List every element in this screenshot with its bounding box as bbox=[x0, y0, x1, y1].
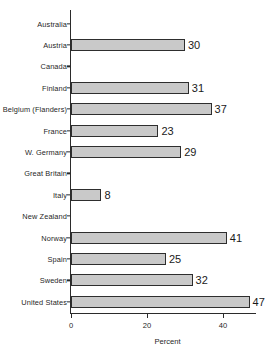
category-tick-mark bbox=[67, 66, 72, 67]
category-label: France bbox=[43, 126, 67, 135]
bar-row: Sweden32 bbox=[0, 270, 277, 291]
bar-row: Spain25 bbox=[0, 248, 277, 269]
bar-row: United States47 bbox=[0, 291, 277, 312]
category-label: Finland bbox=[42, 83, 67, 92]
bar bbox=[71, 189, 101, 201]
bar-value-label: 31 bbox=[192, 82, 204, 94]
category-label: New Zealand bbox=[22, 212, 67, 221]
bar-row: Belgium (Flanders)37 bbox=[0, 99, 277, 120]
bar-chart-figure: AustraliaAustria30CanadaFinland31Belgium… bbox=[0, 0, 277, 352]
bar bbox=[71, 232, 227, 244]
category-label: Australia bbox=[37, 19, 67, 28]
category-label: Belgium (Flanders) bbox=[3, 105, 67, 114]
value-tick-mark bbox=[71, 313, 72, 318]
bar-value-label: 30 bbox=[188, 39, 200, 51]
bar bbox=[71, 146, 181, 158]
category-label: Norway bbox=[41, 233, 67, 242]
value-tick-label: 0 bbox=[69, 321, 73, 330]
bar bbox=[71, 274, 193, 286]
category-label: United States bbox=[21, 297, 67, 306]
bar-value-label: 29 bbox=[184, 146, 196, 158]
bar-row: Finland31 bbox=[0, 77, 277, 98]
bar bbox=[71, 296, 250, 308]
category-tick-mark bbox=[67, 23, 72, 24]
category-label: Spain bbox=[48, 254, 67, 263]
bar bbox=[71, 253, 166, 265]
value-tick-mark bbox=[223, 313, 224, 318]
bar bbox=[71, 125, 158, 137]
bar-value-label: 25 bbox=[169, 253, 181, 265]
bar-value-label: 8 bbox=[104, 189, 110, 201]
category-label: W. Germany bbox=[25, 147, 67, 156]
bar-row: W. Germany29 bbox=[0, 141, 277, 162]
category-label: Italy bbox=[53, 190, 67, 199]
value-tick-label: 20 bbox=[143, 321, 151, 330]
value-axis-title: Percent bbox=[0, 337, 277, 346]
category-tick-mark bbox=[67, 173, 72, 174]
plot-area: AustraliaAustria30CanadaFinland31Belgium… bbox=[0, 0, 277, 352]
value-axis-title-text: Percent bbox=[154, 337, 180, 346]
bar-value-label: 47 bbox=[253, 296, 265, 308]
value-axis-line bbox=[70, 313, 256, 314]
bar-row: Italy8 bbox=[0, 184, 277, 205]
bar-row: New Zealand bbox=[0, 206, 277, 227]
category-tick-mark bbox=[67, 215, 72, 216]
bar-row: Great Britain bbox=[0, 163, 277, 184]
value-tick-label: 40 bbox=[219, 321, 227, 330]
bar-row: Australia bbox=[0, 13, 277, 34]
bar bbox=[71, 39, 185, 51]
bar-value-label: 23 bbox=[161, 125, 173, 137]
bar-row: Austria30 bbox=[0, 34, 277, 55]
category-label: Great Britain bbox=[24, 169, 67, 178]
category-label: Canada bbox=[41, 62, 68, 71]
category-label: Sweden bbox=[40, 276, 67, 285]
bar-value-label: 41 bbox=[230, 232, 242, 244]
bar-value-label: 37 bbox=[215, 103, 227, 115]
bar bbox=[71, 103, 212, 115]
category-label: Austria bbox=[43, 40, 67, 49]
bar-row: France23 bbox=[0, 120, 277, 141]
bar-row: Canada bbox=[0, 56, 277, 77]
bar bbox=[71, 82, 189, 94]
bar-row: Norway41 bbox=[0, 227, 277, 248]
value-tick-mark bbox=[147, 313, 148, 318]
bar-value-label: 32 bbox=[196, 274, 208, 286]
